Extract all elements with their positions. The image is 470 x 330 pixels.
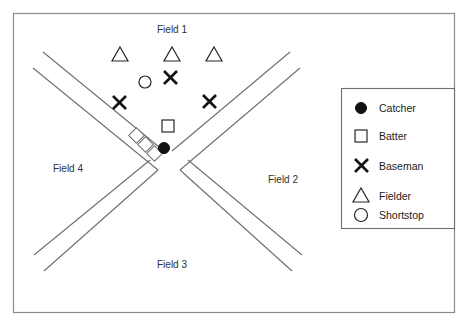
legend-row-catcher: Catcher	[356, 102, 417, 114]
player-catcher	[159, 143, 170, 154]
baseball-field-diagram: Field 1 Field 2 Field 3 Field 4	[0, 0, 470, 330]
field-label-3: Field 3	[157, 259, 187, 270]
field-label-2: Field 2	[268, 174, 298, 185]
legend-label-fielder: Fielder	[379, 190, 412, 202]
field-label-1: Field 1	[157, 24, 187, 35]
legend-label-catcher: Catcher	[379, 102, 416, 114]
legend-label-batter: Batter	[379, 130, 408, 142]
field-diagram-canvas: Field 1 Field 2 Field 3 Field 4	[0, 0, 470, 330]
field-label-4: Field 4	[53, 163, 83, 174]
legend-label-baseman: Baseman	[379, 160, 424, 172]
legend-label-shortstop: Shortstop	[379, 209, 424, 221]
legend-filled-circle-icon	[356, 103, 367, 114]
legend: Catcher Batter Baseman Fielder	[342, 89, 455, 229]
